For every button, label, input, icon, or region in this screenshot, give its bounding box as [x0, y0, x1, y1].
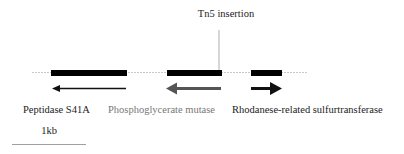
- gene-box-phosphoglycerate-mutase: [167, 70, 222, 76]
- left-arrowhead-icon: [166, 83, 177, 95]
- arrow-peptidase: [52, 85, 126, 92]
- arrow-rhodanese: [251, 82, 282, 95]
- arrow-phosphoglycerate-mutase: [166, 83, 221, 95]
- gene-label-rhodanese: Rhodanese-related sulfurtransferase: [232, 104, 383, 115]
- scale-bar-label: 1kb: [41, 125, 57, 136]
- gene-cluster-diagram: Tn5 insertion Peptidase S41A Phosphoglyc…: [0, 0, 404, 154]
- gene-label-phosphoglycerate-mutase: Phosphoglycerate mutase: [108, 104, 215, 115]
- tn5-insertion-label: Tn5 insertion: [198, 8, 255, 19]
- gene-label-peptidase: Peptidase S41A: [23, 104, 90, 115]
- gene-box-rhodanese: [251, 70, 282, 76]
- right-arrowhead-icon: [270, 82, 282, 95]
- left-arrowhead-icon: [52, 85, 60, 92]
- gene-box-peptidase: [51, 70, 127, 76]
